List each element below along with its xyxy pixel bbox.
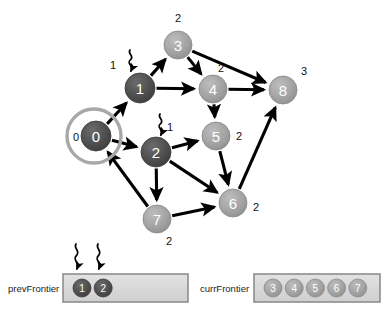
- edge-2-5: [172, 141, 198, 148]
- frontier-chip-label-1: 1: [79, 283, 85, 294]
- squiggle-pointer-to-prevFrontier-slot-2: [97, 244, 100, 269]
- graph-node-1[interactable]: 1: [125, 73, 155, 103]
- edge-3-8: [192, 51, 265, 82]
- edge-2-6: [170, 161, 217, 192]
- edge-3-4: [188, 57, 202, 74]
- distance-label-node-2: 1: [167, 121, 173, 133]
- squiggle-pointer-to-1: [129, 50, 132, 71]
- frontier-chip-label-5: 5: [313, 283, 319, 294]
- frontier-prev: prevFrontier12: [8, 274, 188, 302]
- frontier-chip-label-6: 6: [334, 283, 340, 294]
- graph-node-7[interactable]: 7: [143, 205, 171, 233]
- node-label-7: 7: [153, 211, 161, 228]
- diagram-canvas: 012345678 011222223 prevFrontier12currFr…: [0, 0, 391, 315]
- graph-node-5[interactable]: 5: [202, 122, 230, 150]
- frontier-chip-label-7: 7: [355, 283, 361, 294]
- node-label-2: 2: [152, 144, 160, 161]
- edge-7-6: [172, 207, 214, 216]
- node-label-4: 4: [209, 81, 217, 98]
- frontier-chip-label-3: 3: [270, 283, 276, 294]
- graph-node-6[interactable]: 6: [219, 189, 247, 217]
- frontier-curr-label: currFrontier: [200, 283, 249, 294]
- edge-6-8: [239, 107, 275, 188]
- edge-4-8: [228, 89, 264, 90]
- distance-label-node-0: 0: [73, 131, 79, 143]
- node-label-1: 1: [136, 80, 144, 97]
- edge-5-6: [220, 151, 229, 185]
- node-label-3: 3: [174, 37, 182, 54]
- graph-node-0[interactable]: 0: [81, 121, 111, 151]
- edge-0-2: [112, 140, 137, 147]
- squiggle-pointer-to-2: [159, 114, 162, 135]
- graph-node-4[interactable]: 4: [199, 75, 227, 103]
- edge-4-5: [214, 104, 215, 117]
- edge-1-4: [156, 88, 194, 89]
- frontier-prev-item-1[interactable]: 1: [73, 279, 91, 297]
- node-label-0: 0: [92, 128, 100, 145]
- node-label-8: 8: [279, 82, 287, 99]
- graph-node-3[interactable]: 3: [164, 31, 192, 59]
- distance-label-node-1: 1: [110, 59, 116, 71]
- distance-label-node-5: 2: [236, 130, 242, 142]
- squiggle-pointer-to-prevFrontier-slot-1: [75, 244, 78, 269]
- distance-label-node-6: 2: [253, 201, 259, 213]
- frontier-curr-item-5[interactable]: 5: [306, 279, 324, 297]
- graph-node-8[interactable]: 8: [269, 76, 297, 104]
- frontier-curr: currFrontier34567: [200, 274, 380, 302]
- distance-label-node-8: 3: [301, 65, 307, 77]
- frontier-chip-label-2: 2: [100, 283, 106, 294]
- edge-7-0: [108, 152, 148, 206]
- frontier-prev-label: prevFrontier: [8, 283, 59, 294]
- distance-label-node-4: 2: [218, 62, 224, 74]
- frontier-queues-layer: prevFrontier12currFrontier34567: [8, 274, 380, 302]
- edge-1-3: [151, 59, 165, 75]
- node-label-6: 6: [229, 195, 237, 212]
- frontier-prev-item-2[interactable]: 2: [94, 279, 112, 297]
- frontier-chip-label-4: 4: [291, 283, 297, 294]
- graph-svg: 012345678 011222223 prevFrontier12currFr…: [0, 0, 391, 315]
- frontier-curr-item-3[interactable]: 3: [264, 279, 282, 297]
- node-label-5: 5: [212, 128, 220, 145]
- distance-label-node-3: 2: [175, 12, 181, 24]
- frontier-curr-item-7[interactable]: 7: [349, 279, 367, 297]
- distance-label-node-7: 2: [166, 235, 172, 247]
- frontier-curr-item-6[interactable]: 6: [328, 279, 346, 297]
- graph-node-2[interactable]: 2: [141, 137, 171, 167]
- frontier-curr-item-4[interactable]: 4: [285, 279, 303, 297]
